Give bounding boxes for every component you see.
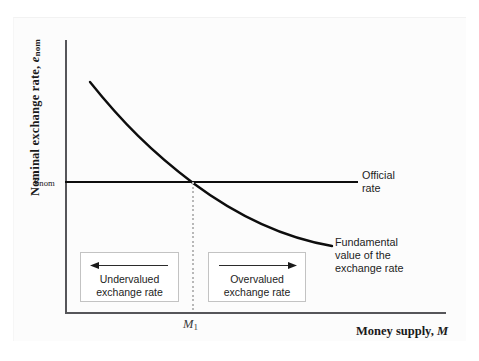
- exchange-rate-figure: Nominal exchange rate, enom Money supply…: [0, 0, 479, 361]
- undervalued-label-line-2: exchange rate: [96, 286, 163, 299]
- arrow-left-icon: [90, 261, 170, 270]
- undervalued-region-box: Undervalued exchange rate: [80, 252, 179, 302]
- plot-area: Nominal exchange rate, enom Money supply…: [0, 0, 479, 361]
- official-rate-line-2: rate: [362, 182, 395, 195]
- fundamental-value-line-2: value of the: [335, 249, 403, 262]
- curve-path: [90, 82, 332, 246]
- overvalued-label-line-2: exchange rate: [224, 286, 291, 299]
- arrow-right-icon: [217, 261, 297, 270]
- fundamental-value-curve: [0, 0, 479, 361]
- fundamental-value-callout: Fundamental value of the exchange rate: [335, 236, 403, 275]
- official-rate-callout: Official rate: [362, 169, 395, 195]
- fundamental-value-line-3: exchange rate: [335, 262, 403, 275]
- m1-guide-line: [192, 182, 194, 313]
- overvalued-label-line-1: Overvalued: [230, 273, 284, 286]
- official-rate-line-1: Official: [362, 169, 395, 182]
- fundamental-value-line-1: Fundamental: [335, 236, 403, 249]
- undervalued-label-line-1: Undervalued: [100, 273, 160, 286]
- overvalued-region-box: Overvalued exchange rate: [208, 252, 306, 302]
